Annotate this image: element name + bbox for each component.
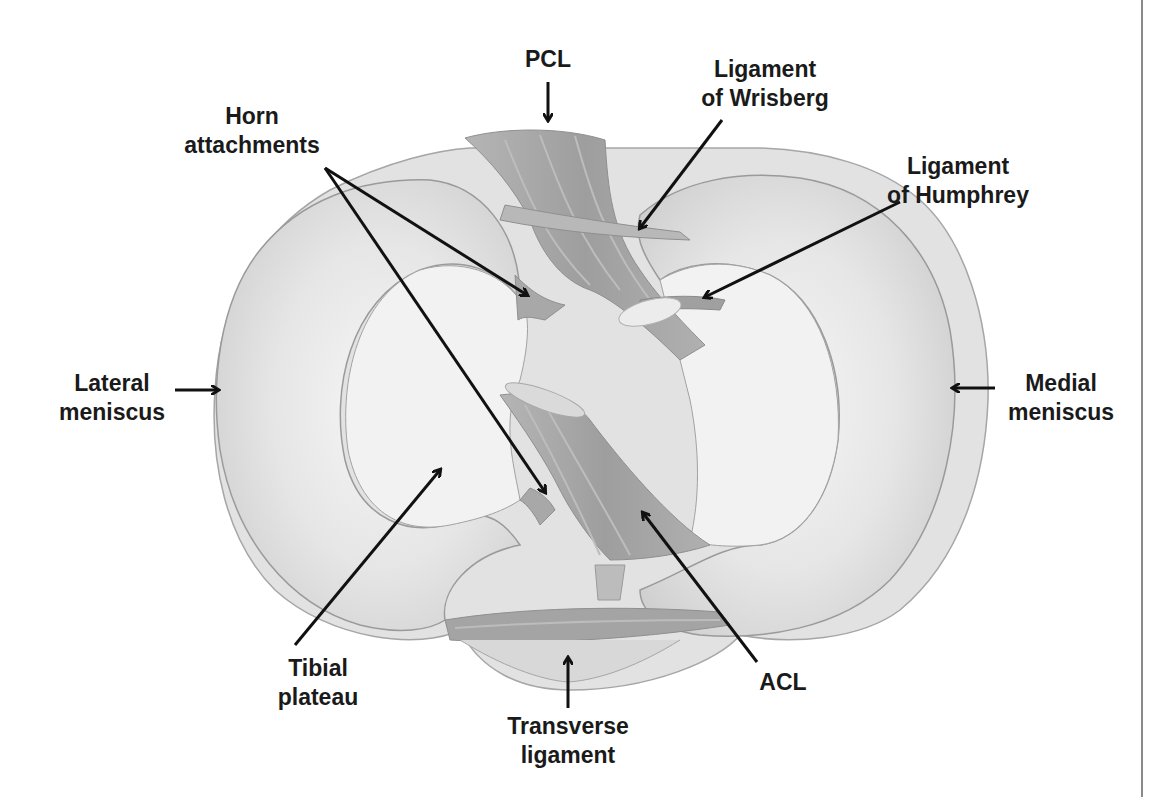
label-transverse-ligament: Transverse ligament <box>507 712 628 770</box>
label-tibial-plateau: Tibial plateau <box>278 654 359 712</box>
label-medial-meniscus: Medial meniscus <box>1008 369 1114 427</box>
label-ligament-of-humphrey: Ligament of Humphrey <box>887 152 1029 210</box>
label-ligament-of-wrisberg: Ligament of Wrisberg <box>701 55 828 113</box>
right-border-line <box>1141 0 1143 797</box>
label-lateral-meniscus: Lateral meniscus <box>59 369 165 427</box>
label-horn-attachments: Horn attachments <box>184 102 319 160</box>
knee-meniscus-diagram: PCL Horn attachments Ligament of Wrisber… <box>0 0 1169 797</box>
anatomy-illustration <box>0 0 1169 797</box>
label-pcl: PCL <box>525 45 571 74</box>
label-acl: ACL <box>759 668 806 697</box>
